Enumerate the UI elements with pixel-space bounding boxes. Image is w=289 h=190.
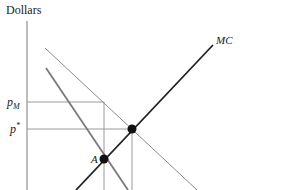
marginal-cost-curve (76, 45, 213, 190)
demand-curve (45, 48, 197, 190)
monopoly-diagram (0, 0, 289, 190)
point-a-label: A (91, 153, 98, 165)
mc-label: MC (216, 34, 233, 46)
y-axis-label: Dollars (6, 3, 41, 18)
pm-label: pM (7, 95, 20, 111)
point-a (100, 155, 109, 164)
equilibrium-point (128, 125, 137, 134)
pstar-label: p* (10, 121, 20, 137)
